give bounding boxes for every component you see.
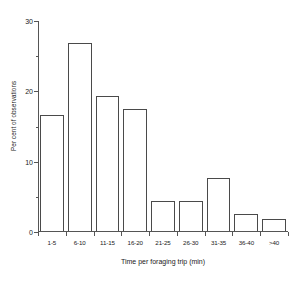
bar-6-10 bbox=[68, 43, 92, 231]
x-tick-label->40: >40 bbox=[269, 239, 279, 246]
y-minor-tick-15 bbox=[36, 127, 39, 128]
x-tick-label-36-40: 36-40 bbox=[239, 239, 254, 246]
bar-16-20 bbox=[123, 109, 147, 231]
y-tick-label-30: 30 bbox=[25, 18, 33, 25]
x-tick-label-11-15: 11-15 bbox=[100, 239, 115, 246]
y-minor-tick-5 bbox=[36, 197, 39, 198]
y-axis-line bbox=[38, 21, 39, 232]
x-axis-title: Time per foraging trip (min) bbox=[38, 258, 288, 265]
bar-36-40 bbox=[234, 214, 258, 231]
plot-area: 0102030 1-56-1011-1516-2021-2526-3031-35… bbox=[38, 21, 288, 232]
x-tick-label-6-10: 6-10 bbox=[74, 239, 86, 246]
x-tick-4 bbox=[149, 232, 150, 236]
x-tick-2 bbox=[94, 232, 95, 236]
y-tick-20 bbox=[34, 91, 38, 92]
x-tick-label-16-20: 16-20 bbox=[128, 239, 143, 246]
y-tick-label-0: 0 bbox=[29, 229, 33, 236]
x-tick-7 bbox=[232, 232, 233, 236]
bar->40 bbox=[262, 219, 286, 231]
y-tick-label-20: 20 bbox=[25, 88, 33, 95]
y-tick-label-10: 10 bbox=[25, 158, 33, 165]
x-tick-0 bbox=[38, 232, 39, 236]
x-tick-1 bbox=[66, 232, 67, 236]
y-tick-10 bbox=[34, 162, 38, 163]
x-tick-end bbox=[288, 232, 289, 236]
bar-21-25 bbox=[151, 201, 175, 231]
chart-figure: Per cent of observations 0102030 1-56-10… bbox=[0, 0, 295, 283]
x-tick-3 bbox=[121, 232, 122, 236]
x-axis-line bbox=[38, 231, 288, 232]
y-axis-title: Per cent of observations bbox=[6, 0, 20, 232]
bar-26-30 bbox=[179, 201, 203, 231]
x-tick-label-1-5: 1-5 bbox=[48, 239, 57, 246]
y-tick-30 bbox=[34, 21, 38, 22]
x-tick-5 bbox=[177, 232, 178, 236]
bar-1-5 bbox=[40, 115, 64, 231]
x-tick-label-31-35: 31-35 bbox=[211, 239, 226, 246]
x-tick-6 bbox=[205, 232, 206, 236]
y-minor-tick-25 bbox=[36, 56, 39, 57]
x-tick-8 bbox=[260, 232, 261, 236]
bar-11-15 bbox=[96, 96, 120, 231]
bar-31-35 bbox=[207, 178, 231, 231]
x-tick-label-21-25: 21-25 bbox=[155, 239, 170, 246]
x-tick-label-26-30: 26-30 bbox=[183, 239, 198, 246]
